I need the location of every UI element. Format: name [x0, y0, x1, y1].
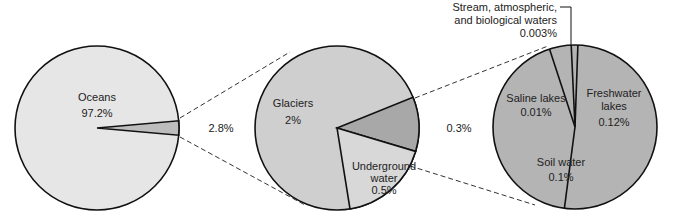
callout-2-8: 2.8% — [208, 122, 233, 134]
label-stream-2: and biological waters — [454, 14, 557, 26]
label-underground-1: Underground — [352, 160, 416, 172]
callout-0-3: 0.3% — [446, 122, 471, 134]
stream-callout-line — [560, 7, 571, 46]
label-soil: Soil water — [537, 156, 586, 168]
pie-total-water — [15, 46, 179, 210]
label-fresh-pct: 0.12% — [598, 116, 629, 128]
label-saline: Saline lakes — [506, 92, 566, 104]
label-glaciers-pct: 2% — [285, 114, 301, 126]
water-distribution-chart: Oceans 97.2% 2.8% Glaciers 2% Undergroun… — [0, 0, 674, 220]
pie-surface-water — [493, 7, 657, 209]
label-soil-pct: 0.1% — [548, 171, 573, 183]
label-underground-pct: 0.5% — [371, 184, 396, 196]
label-underground-2: water — [370, 172, 398, 184]
label-glaciers: Glaciers — [273, 97, 314, 109]
label-stream-pct: 0.003% — [520, 27, 558, 39]
label-oceans-pct: 97.2% — [81, 107, 112, 119]
label-saline-pct: 0.01% — [520, 106, 551, 118]
label-fresh-2: lakes — [601, 100, 627, 112]
label-oceans: Oceans — [78, 91, 116, 103]
label-fresh-1: Freshwater — [586, 87, 641, 99]
label-stream-1: Stream, atmospheric, — [452, 1, 557, 13]
